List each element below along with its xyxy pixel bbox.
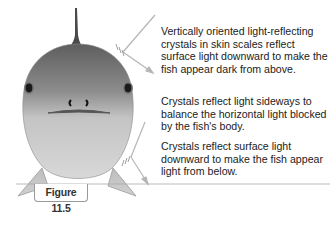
eye-icon-left [24, 82, 34, 94]
annotation-bottom: Crystals reflect surface light downward … [161, 140, 329, 178]
annotation-side: Crystals reflect light sideways to balan… [161, 95, 329, 133]
figure-label: Figure 11.5 [34, 184, 88, 202]
right-fin [108, 168, 136, 196]
dorsal-fin [70, 8, 82, 46]
annotation-top: Vertically oriented light-reflecting cry… [161, 25, 329, 75]
eye-icon-right [123, 82, 133, 94]
